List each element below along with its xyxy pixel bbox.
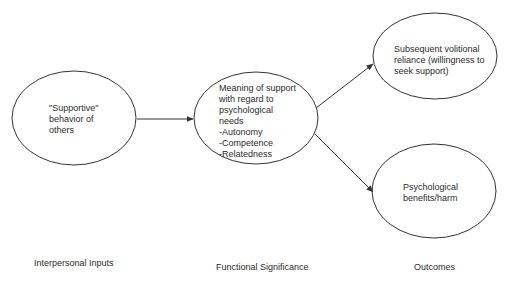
edge-arrow-significance-to-reliance xyxy=(316,64,373,108)
node-line: with regard to xyxy=(219,94,296,105)
stage-label-functional-significance: Functional Significance xyxy=(216,262,309,272)
node-line: reliance (willingness to xyxy=(394,55,485,66)
node-line: others xyxy=(49,125,98,136)
node-line: benefits/harm xyxy=(403,193,458,204)
node-line: Psychological xyxy=(403,182,458,193)
node-text-supportive-behavior: "Supportive" behavior of others xyxy=(49,103,98,136)
edge-arrow-significance-to-benefits xyxy=(315,134,373,192)
node-text-meaning-of-support: Meaning of support with regard to psycho… xyxy=(219,83,296,160)
node-text-volitional-reliance: Subsequent volitional reliance (willingn… xyxy=(394,44,485,77)
node-line: seek support) xyxy=(394,66,485,77)
node-line: behavior of xyxy=(49,114,98,125)
node-line: needs xyxy=(219,116,296,127)
stage-label-outcomes: Outcomes xyxy=(414,262,455,272)
node-line: "Supportive" xyxy=(49,103,98,114)
node-line: Subsequent volitional xyxy=(394,44,485,55)
node-line: -Autonomy xyxy=(219,127,296,138)
node-text-psychological-benefits: Psychological benefits/harm xyxy=(403,182,458,204)
node-line: psychological xyxy=(219,105,296,116)
node-line: -Competence xyxy=(219,138,296,149)
stage-label-interpersonal-inputs: Interpersonal Inputs xyxy=(34,258,114,268)
node-line: Meaning of support xyxy=(219,83,296,94)
node-line: -Relatedness xyxy=(219,149,296,160)
